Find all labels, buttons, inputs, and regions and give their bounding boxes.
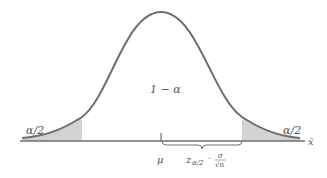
right-tail-label: α/2 (283, 124, 301, 137)
bell-curve (22, 12, 300, 138)
normal-curve-diagram: 1 − α α/2 α/2 x̄ μ z α/2 · σ √n (0, 0, 327, 178)
z-label: z (185, 154, 192, 165)
sqrt-n-denominator: √n (215, 161, 224, 169)
axis-label: x̄ (308, 136, 314, 147)
margin-formula: z α/2 · σ √n (185, 152, 226, 169)
left-tail-label: α/2 (26, 124, 44, 137)
dot-operator: · (208, 154, 211, 164)
center-label: 1 − α (150, 83, 181, 96)
sigma-numerator: σ (218, 152, 223, 160)
mean-label: μ (157, 154, 164, 165)
z-subscript: α/2 (192, 159, 204, 167)
margin-brace (162, 141, 242, 149)
